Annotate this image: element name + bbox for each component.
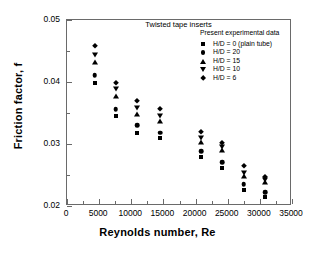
x-tick-minor: [276, 201, 277, 204]
data-point: [220, 166, 224, 170]
data-point: [241, 163, 247, 169]
data-point: [92, 73, 97, 78]
data-point: [157, 119, 163, 124]
data-point: [92, 43, 98, 49]
legend-label: H/D = 0 (plain tube): [213, 41, 272, 48]
data-point: [114, 114, 118, 118]
data-point: [157, 106, 163, 112]
y-tick-minor: [67, 175, 70, 176]
x-tick-major: [99, 199, 100, 204]
diamond-marker-icon: [196, 76, 210, 80]
legend-item-hd-10: H/D = 10: [196, 66, 279, 75]
legend-label: H/D = 10: [213, 66, 240, 73]
x-tick-major: [292, 199, 293, 204]
data-point: [199, 155, 203, 159]
plot-title: Twisted tape inserts: [66, 20, 291, 29]
y-tick-major: [67, 144, 72, 145]
legend-title: Present experimental data: [200, 30, 279, 37]
x-tick-major: [163, 199, 164, 204]
data-point: [241, 170, 247, 175]
x-tick-major: [228, 199, 229, 204]
x-tick-major: [196, 199, 197, 204]
x-tick-major: [131, 199, 132, 204]
y-tick-minor: [67, 51, 70, 52]
triangle-up-marker-icon: [196, 59, 210, 64]
y-tick-minor: [67, 113, 70, 114]
x-tick-minor: [212, 201, 213, 204]
data-point: [220, 160, 225, 165]
data-point: [135, 131, 139, 135]
x-tick-label: 35000: [268, 208, 314, 218]
x-tick-major: [260, 199, 261, 204]
y-tick-major: [67, 82, 72, 83]
data-point: [113, 94, 119, 99]
y-tick-label: 0.04: [0, 76, 60, 86]
data-point: [92, 60, 98, 65]
legend-item-hd-15: H/D = 15: [196, 57, 279, 66]
data-point: [263, 190, 268, 195]
y-tick-label: 0.02: [0, 200, 60, 210]
y-tick-label: 0.05: [0, 14, 60, 24]
data-point: [199, 149, 204, 154]
data-point: [158, 131, 163, 136]
data-point: [113, 80, 119, 86]
legend-label: H/D = 6: [213, 75, 236, 82]
data-point: [114, 107, 119, 112]
x-axis-title: Reynolds number, Re: [0, 226, 315, 238]
x-tick-minor: [244, 201, 245, 204]
x-tick-major: [67, 199, 68, 204]
data-point: [198, 135, 204, 140]
data-point: [157, 114, 163, 119]
legend-item-hd-20: H/D = 20: [196, 48, 279, 57]
chart-legend: Present experimental data H/D = 0 (plain…: [196, 30, 279, 83]
circle-marker-icon: [196, 50, 210, 55]
chart-figure: Twisted tape inserts Present experimenta…: [0, 0, 315, 254]
legend-item-hd-6: H/D = 6: [196, 74, 279, 83]
y-tick-label: 0.03: [0, 138, 60, 148]
data-point: [92, 52, 98, 57]
legend-label: H/D = 20: [213, 49, 240, 56]
data-point: [93, 81, 97, 85]
x-tick-minor: [83, 201, 84, 204]
legend-label: H/D = 15: [213, 58, 240, 65]
x-tick-minor: [115, 201, 116, 204]
y-tick-major: [67, 206, 72, 207]
x-tick-minor: [180, 201, 181, 204]
data-point: [134, 98, 140, 104]
data-point: [134, 111, 140, 116]
data-point: [134, 106, 140, 111]
data-point: [241, 182, 246, 187]
data-point: [242, 188, 246, 192]
square-marker-icon: [196, 42, 210, 46]
data-point: [158, 136, 162, 140]
data-point: [135, 123, 140, 128]
data-point: [198, 128, 204, 134]
legend-item-hd-0: H/D = 0 (plain tube): [196, 40, 279, 49]
y-axis-title: Friction factor, f: [12, 36, 24, 176]
triangle-down-marker-icon: [196, 67, 210, 72]
x-tick-minor: [147, 201, 148, 204]
data-point: [263, 195, 267, 199]
data-point: [113, 87, 119, 92]
